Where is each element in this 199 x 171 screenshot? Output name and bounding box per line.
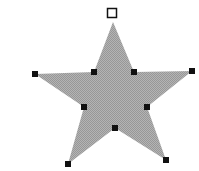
star-shape[interactable]: [35, 22, 192, 164]
rotation-handle[interactable]: [108, 9, 117, 18]
vertex-handle[interactable]: [163, 157, 169, 163]
drawing-canvas[interactable]: [0, 0, 199, 171]
vertex-handle[interactable]: [131, 69, 137, 75]
vertex-handle[interactable]: [81, 104, 87, 110]
vertex-handle[interactable]: [144, 104, 150, 110]
vertex-handle[interactable]: [65, 161, 71, 167]
vertex-handle[interactable]: [112, 125, 118, 131]
vertex-handle[interactable]: [32, 71, 38, 77]
vertex-handle[interactable]: [91, 69, 97, 75]
vertex-handle[interactable]: [189, 68, 195, 74]
